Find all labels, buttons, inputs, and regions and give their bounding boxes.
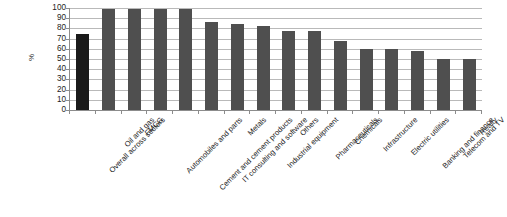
- bar: [205, 22, 218, 110]
- bar: [308, 31, 321, 110]
- bar: [282, 31, 295, 110]
- bar-series: [70, 8, 482, 110]
- x-axis-category-label: Metals: [247, 116, 268, 137]
- y-axis-tick-label: 70: [44, 35, 66, 43]
- bar: [154, 9, 167, 110]
- bar: [128, 9, 141, 110]
- y-axis-title: %: [27, 54, 36, 61]
- bar: [437, 59, 450, 110]
- bar: [385, 49, 398, 110]
- y-axis-tick-label: 60: [44, 45, 66, 53]
- bar: [102, 9, 115, 110]
- bar: [411, 51, 424, 110]
- bar: [360, 49, 373, 110]
- y-axis-tick-label: 30: [44, 75, 66, 83]
- y-axis-tick-label: 90: [44, 14, 66, 22]
- y-axis-tick-label: 10: [44, 96, 66, 104]
- y-axis-tick-labels: 0102030405060708090100: [44, 8, 66, 110]
- y-axis-tick-label: 80: [44, 24, 66, 32]
- plot-area: [69, 8, 482, 111]
- bar: [334, 41, 347, 110]
- bar: [231, 24, 244, 110]
- y-axis-tick-label: 100: [44, 4, 66, 12]
- y-axis-tick-label: 40: [44, 65, 66, 73]
- y-axis-tick-label: 50: [44, 55, 66, 63]
- bar: [463, 59, 476, 110]
- y-axis-tick-label: 0: [44, 106, 66, 114]
- bar: [76, 34, 89, 111]
- bar: [257, 26, 270, 110]
- x-axis-category-labels: Overall across sectorsOil and gasFMCGAut…: [0, 114, 492, 217]
- y-axis-tick-label: 20: [44, 86, 66, 94]
- bar: [179, 9, 192, 110]
